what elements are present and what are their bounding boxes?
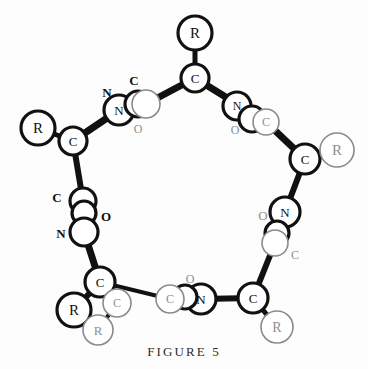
atom-text-label: N <box>102 85 112 100</box>
atom-label: R <box>94 323 103 338</box>
atom-label: C <box>96 275 105 290</box>
atom-label: C <box>113 296 121 310</box>
atom-node-c: C <box>253 109 279 135</box>
atom-label: R <box>190 25 200 41</box>
atom-label: C <box>166 292 174 306</box>
peptide-ring-diagram: RCNCCRNCRNCCRCRCRN NCOOCONOCO <box>0 0 368 369</box>
atom-node-r: R <box>320 133 354 167</box>
atom-label: R <box>69 302 79 318</box>
atom-label: C <box>301 152 310 167</box>
atom-node-c: C <box>156 285 184 313</box>
atom-node <box>70 218 98 246</box>
atom-text-label: O <box>231 123 240 137</box>
atom-node-r: R <box>83 315 113 345</box>
atom-text-label: O <box>101 209 111 224</box>
atom-text-label: C <box>52 190 61 205</box>
atom-label: R <box>33 120 43 136</box>
atom-node-c: C <box>238 283 268 313</box>
atom-label: C <box>249 291 258 306</box>
atom-circle <box>262 230 288 256</box>
atom-label: R <box>272 320 282 335</box>
atom-node-c: C <box>290 144 320 174</box>
figure-5-container: RCNCCRNCRNCCRCRCRN NCOOCONOCO FIGURE 5 <box>0 0 368 369</box>
atom-label: C <box>262 115 270 129</box>
atom-label: C <box>191 71 200 86</box>
atom-node-c: C <box>103 289 131 317</box>
atom-node-c: C <box>181 64 209 92</box>
atom-text-label: O <box>186 272 195 286</box>
atom-text-label: O <box>258 208 267 223</box>
figure-caption: FIGURE 5 <box>0 344 368 360</box>
atom-node <box>262 230 288 256</box>
atom-label: R <box>332 142 342 158</box>
atom-text-label: N <box>56 226 66 241</box>
atom-circle <box>70 218 98 246</box>
atom-text-label: C <box>129 73 138 88</box>
atom-label: C <box>69 134 78 149</box>
atom-circle <box>132 90 160 118</box>
atom-label: N <box>114 103 124 118</box>
atom-node-r: R <box>178 16 212 50</box>
atom-label: N <box>280 205 290 220</box>
diagram-background <box>0 0 368 369</box>
atom-node <box>132 90 160 118</box>
atom-node-c: C <box>59 127 87 155</box>
atom-text-label: O <box>134 122 143 136</box>
atom-node-r: R <box>261 311 293 343</box>
atom-node-r: R <box>21 111 55 145</box>
atom-text-label: C <box>291 248 299 262</box>
